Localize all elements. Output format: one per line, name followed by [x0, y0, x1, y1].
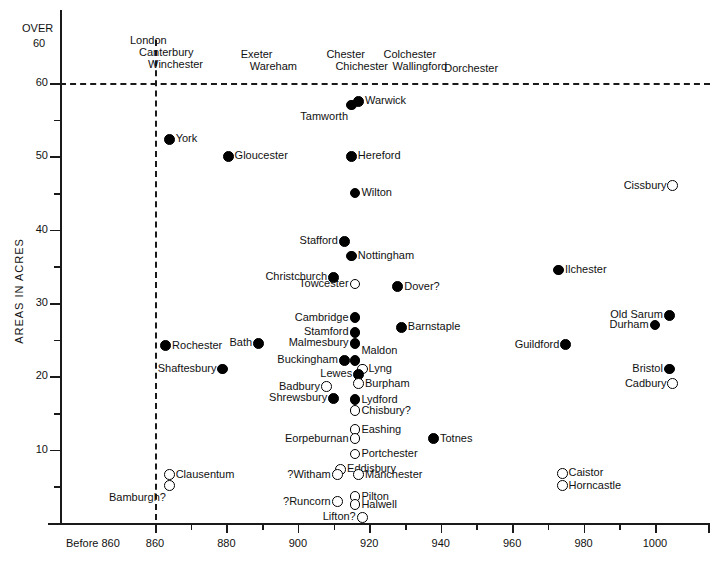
x-tick-label: 860	[130, 538, 180, 549]
data-point-label: Barnstaple	[408, 321, 461, 332]
data-point-filled[interactable]	[396, 322, 407, 333]
data-point-filled[interactable]	[164, 134, 175, 145]
data-point-filled[interactable]	[339, 236, 350, 247]
data-point-label: Warwick	[365, 95, 406, 106]
x-tick-label: 940	[416, 538, 466, 549]
data-point-label: Clausentum	[176, 469, 235, 480]
data-point-label: Portchester	[361, 448, 417, 459]
x-tick-label: 920	[344, 538, 394, 549]
over-60-group-label: Colchester	[384, 48, 448, 60]
x-tick-major	[512, 523, 514, 533]
over-60-group-label: Wareham	[241, 60, 297, 72]
over-60-group: ExeterWareham	[241, 48, 297, 72]
y-tick-minor	[54, 413, 61, 415]
over-60-group: LondonCanterburyWinchester	[130, 34, 203, 70]
data-point-label: Dover?	[404, 281, 439, 292]
data-point-label: Lifton?	[0, 511, 356, 522]
data-point-open[interactable]	[350, 405, 361, 416]
y-tick-label: 30	[30, 297, 48, 308]
x-tick-major	[655, 523, 657, 533]
data-point-label: Caistor	[569, 467, 604, 478]
y-tick-label: 10	[30, 444, 48, 455]
data-point-label: Tamworth	[0, 111, 348, 122]
y-tick-label: 40	[30, 224, 48, 235]
x-tick-minor	[191, 523, 193, 530]
x-tick-major	[298, 523, 300, 533]
data-point-filled[interactable]	[553, 265, 564, 276]
x-tick-major	[584, 523, 586, 533]
data-point-open[interactable]	[350, 433, 361, 444]
data-point-open[interactable]	[557, 480, 568, 491]
y-tick-label: 60	[30, 77, 48, 88]
data-point-filled[interactable]	[328, 393, 339, 404]
data-point-open[interactable]	[667, 378, 678, 389]
threshold-line-60	[60, 83, 710, 85]
over-60-group-label: Chester	[326, 48, 388, 60]
over-60-group: Dorchester	[444, 62, 498, 74]
over-60-group-label: Exeter	[241, 48, 297, 60]
data-point-open[interactable]	[350, 499, 361, 510]
data-point-open[interactable]	[164, 469, 175, 480]
over-60-group-label: London	[130, 34, 203, 46]
over-60-group: ChesterChichester	[326, 48, 388, 72]
data-point-filled[interactable]	[392, 281, 403, 292]
chart-canvas: AREAS IN ACRES OVER 60 LondonCanterburyW…	[0, 0, 718, 565]
data-point-filled[interactable]	[346, 100, 357, 111]
over-60-group: ColchesterWallingford	[384, 48, 448, 72]
y-tick-major	[50, 156, 61, 158]
data-point-label: Maldon	[361, 345, 397, 356]
over-axis-label: OVER	[22, 23, 53, 34]
y-tick-major	[50, 450, 61, 452]
data-point-open[interactable]	[353, 469, 364, 480]
data-point-open[interactable]	[164, 480, 175, 491]
x-tick-label: 900	[273, 538, 323, 549]
data-point-open[interactable]	[332, 496, 343, 507]
over-60-group-label: Wallingford	[384, 60, 448, 72]
over-60-group-label: Chichester	[326, 60, 388, 72]
data-point-open[interactable]	[357, 512, 368, 523]
y-tick-major	[50, 83, 61, 85]
data-point-label: Hereford	[358, 150, 401, 161]
x-tick-minor	[405, 523, 407, 530]
data-point-open[interactable]	[557, 468, 568, 479]
x-tick-minor	[548, 523, 550, 530]
data-point-filled[interactable]	[346, 151, 357, 162]
x-tick-major	[369, 523, 371, 533]
data-point-label: Halwell	[361, 499, 396, 510]
x-tick-label: 960	[487, 538, 537, 549]
x-tick-label: 980	[559, 538, 609, 549]
data-point-open[interactable]	[350, 279, 361, 290]
data-point-filled[interactable]	[664, 364, 675, 375]
x-tick-minor	[262, 523, 264, 530]
x-tick-label: 880	[201, 538, 251, 549]
data-point-label: Eashing	[361, 424, 401, 435]
data-point-label: Badbury	[0, 381, 320, 392]
data-point-filled[interactable]	[650, 320, 661, 331]
data-point-filled[interactable]	[664, 310, 675, 321]
data-point-label: Chisbury?	[361, 405, 411, 416]
y-tick-minor	[54, 193, 61, 195]
data-point-label: Guildford	[0, 339, 559, 350]
data-point-filled[interactable]	[346, 251, 357, 262]
data-point-filled[interactable]	[428, 433, 439, 444]
x-tick-major	[226, 523, 228, 533]
data-point-open[interactable]	[332, 469, 343, 480]
x-tick-minor	[334, 523, 336, 530]
data-point-label: Gloucester	[235, 150, 288, 161]
y-tick-minor	[54, 266, 61, 268]
data-point-filled[interactable]	[560, 339, 571, 350]
data-point-label: Horncastle	[569, 480, 622, 491]
x-tick-minor	[476, 523, 478, 530]
data-point-label: Towcester	[0, 278, 349, 289]
data-point-label: York	[176, 133, 198, 144]
x-tick-major	[155, 523, 157, 533]
data-point-label: Totnes	[440, 433, 472, 444]
y-tick-major	[50, 303, 61, 305]
data-point-open[interactable]	[667, 180, 678, 191]
data-point-label: Stafford	[0, 235, 338, 246]
x-axis-end-cap	[708, 523, 710, 533]
data-point-open[interactable]	[350, 449, 361, 460]
data-point-label: Cissbury	[0, 180, 666, 191]
data-point-filled[interactable]	[350, 394, 361, 405]
data-point-filled[interactable]	[223, 151, 234, 162]
